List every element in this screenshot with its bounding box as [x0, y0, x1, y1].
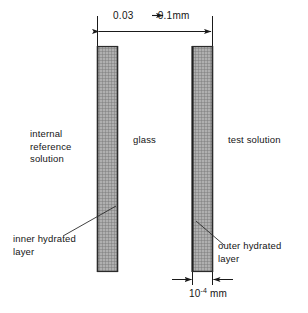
top-dimension-from: 0.03: [113, 10, 134, 21]
label-glass: glass: [133, 134, 156, 147]
bottom-dimension-mantissa: 10: [189, 288, 200, 299]
glass-electrode-diagram: 0.030.1mm internal reference solution gl…: [0, 0, 308, 313]
label-inner-hydrated-layer: inner hydrated layer: [13, 233, 76, 258]
left-glass-bar: [97, 46, 118, 272]
left-bar-fill: [97, 46, 118, 272]
top-dimension-label: 0.030.1mm: [113, 10, 190, 23]
right-glass-bar: [192, 46, 213, 272]
label-test-solution: test solution: [228, 134, 281, 147]
top-dimension-to: 0.1: [158, 10, 173, 21]
label-outer-hydrated-layer: outer hydrated layer: [218, 240, 281, 265]
right-bar-fill: [192, 46, 213, 272]
bottom-dimension-unit: mm: [207, 288, 227, 299]
label-internal-reference-solution: internal reference solution: [30, 128, 71, 166]
bottom-dimension-group: [172, 272, 233, 285]
bottom-dimension-label: 10-4 mm: [189, 288, 227, 301]
top-dimension-unit: mm: [172, 10, 189, 21]
